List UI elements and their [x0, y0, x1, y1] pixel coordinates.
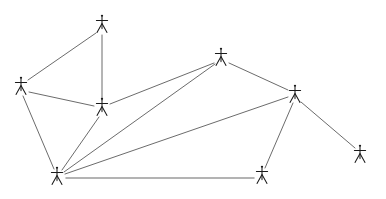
graph-node-n4[interactable] [215, 48, 226, 66]
graph-edge [265, 103, 293, 168]
edge-layer [23, 33, 355, 178]
network-graph [0, 0, 386, 199]
graph-node-n1[interactable] [96, 15, 107, 33]
graph-edge [301, 102, 355, 148]
graph-node-n3[interactable] [96, 98, 107, 116]
graph-node-n6[interactable] [354, 145, 365, 163]
graph-node-n7[interactable] [256, 166, 267, 184]
graph-edge [65, 97, 288, 174]
node-layer [15, 15, 365, 185]
graph-node-n5[interactable] [289, 85, 300, 103]
graph-canvas [0, 0, 386, 199]
graph-edge [28, 33, 96, 80]
graph-edge [110, 63, 214, 104]
graph-edge [23, 96, 54, 169]
graph-edge [64, 64, 215, 172]
graph-edge [62, 117, 99, 170]
graph-node-n8[interactable] [51, 167, 62, 185]
graph-node-n2[interactable] [15, 77, 26, 95]
graph-edge [229, 63, 288, 90]
graph-edge [29, 92, 94, 106]
